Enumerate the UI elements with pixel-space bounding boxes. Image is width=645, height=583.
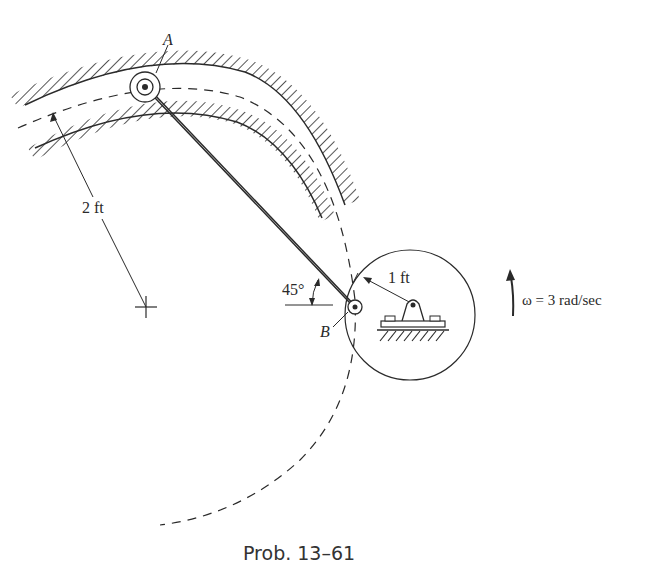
pin-b [348,300,362,314]
label-a: A [162,31,173,48]
label-1ft: 1 ft [388,269,410,286]
figure-caption: Prob. 13–61 [243,542,355,564]
slot-centerline-dashed [18,88,355,525]
label-2ft: 2 ft [82,199,104,216]
label-45deg: 45° [282,281,304,298]
mechanism-diagram: 2 ft A B 45° 1 ft [0,0,645,583]
pin-a [130,72,160,102]
label-b: B [320,323,330,340]
label-omega: ω = 3 rad/sec [522,292,602,308]
rotation-arrow-icon [506,269,515,316]
ground-support [377,300,449,341]
